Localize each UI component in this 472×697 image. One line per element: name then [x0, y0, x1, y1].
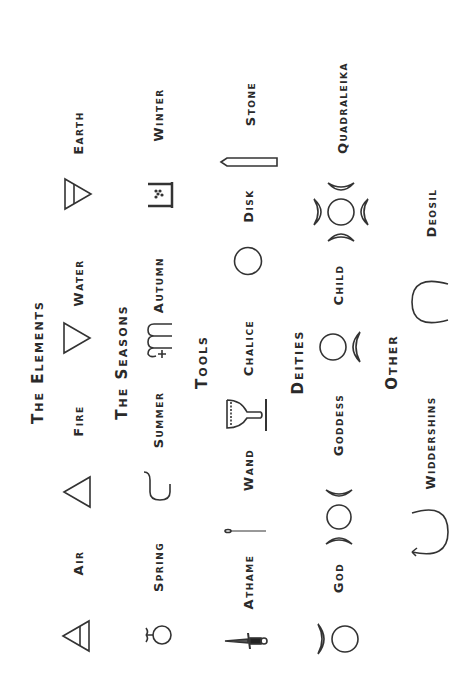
- winter-symbol-icon: [144, 180, 174, 210]
- summer-symbol-icon: [142, 470, 174, 514]
- earth-triangle-icon: [64, 178, 92, 210]
- spring-symbol-icon: [143, 620, 173, 650]
- heading-elements: The Elements: [29, 300, 47, 424]
- autumn-symbol-icon: [144, 320, 174, 360]
- label-earth: Earth: [71, 111, 86, 155]
- label-deosil: Deosil: [424, 188, 439, 237]
- water-triangle-icon: [63, 322, 91, 354]
- triple-moon-icon: [324, 488, 354, 546]
- label-winter: Winter: [151, 88, 166, 141]
- disk-circle-icon: [232, 245, 264, 277]
- fire-triangle-icon: [63, 476, 91, 508]
- heading-deities: Deities: [289, 329, 307, 394]
- heading-seasons: The Seasons: [113, 304, 131, 419]
- chalice-icon: [225, 398, 269, 432]
- child-moon-icon: [318, 330, 362, 364]
- label-autumn: Autumn: [151, 257, 166, 313]
- label-wand: Wand: [241, 449, 256, 491]
- label-water: Water: [71, 259, 86, 306]
- quadraleika-icon: [312, 180, 370, 244]
- heading-tools: Tools: [193, 335, 211, 389]
- label-goddess: Goddess: [331, 394, 346, 456]
- label-fire: Fire: [71, 405, 86, 436]
- horned-god-icon: [316, 622, 360, 656]
- label-spring: Spring: [151, 542, 166, 592]
- label-quadraleika: Quadraleika: [335, 62, 350, 154]
- label-air: Air: [71, 551, 86, 576]
- heading-other: Other: [383, 334, 401, 389]
- label-child: Child: [331, 264, 346, 305]
- label-widdershins: Widdershins: [423, 396, 438, 490]
- air-triangle-icon: [62, 620, 90, 652]
- label-stone: Stone: [243, 82, 258, 126]
- label-athame: Athame: [241, 555, 256, 610]
- deosil-arrow-icon: [408, 278, 452, 326]
- label-god: God: [331, 563, 346, 593]
- label-disk: Disk: [241, 189, 256, 223]
- stone-icon: [219, 155, 279, 169]
- widdershins-arrow-icon: [408, 508, 452, 556]
- athame-dagger-icon: [224, 630, 268, 652]
- label-summer: Summer: [151, 392, 166, 449]
- wand-icon: [224, 526, 268, 536]
- label-chalice: Chalice: [241, 320, 256, 376]
